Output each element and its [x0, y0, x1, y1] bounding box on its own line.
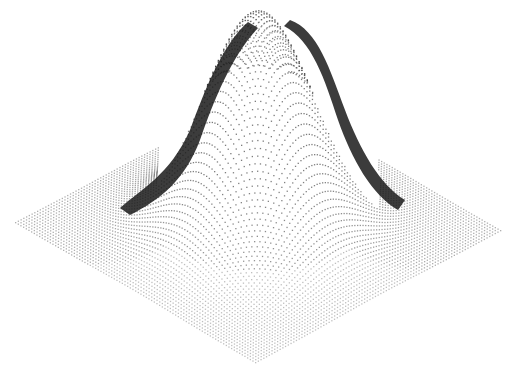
surface-dot: [258, 342, 259, 343]
surface-dot: [406, 231, 407, 232]
surface-dot: [427, 263, 428, 264]
surface-dot: [130, 161, 131, 162]
surface-dot: [285, 41, 286, 42]
surface-dot: [74, 229, 75, 230]
surface-dot: [126, 196, 127, 197]
surface-dot: [122, 176, 123, 177]
surface-dot: [178, 316, 179, 317]
surface-dot: [110, 195, 111, 196]
surface-dot: [338, 228, 339, 229]
surface-dot: [274, 31, 275, 32]
surface-dot: [353, 305, 354, 306]
surface-dot: [357, 230, 358, 231]
surface-dot: [310, 329, 311, 330]
surface-dot: [294, 289, 295, 290]
surface-dot: [273, 145, 274, 146]
surface-dot: [200, 233, 201, 234]
surface-dot: [330, 161, 331, 162]
surface-dot: [201, 173, 202, 174]
surface-dot: [108, 181, 109, 182]
surface-dot: [337, 287, 338, 288]
surface-dot: [112, 237, 113, 238]
surface-dot: [59, 205, 60, 206]
surface-dot: [206, 198, 207, 199]
surface-dot: [195, 210, 196, 211]
surface-dot: [399, 190, 400, 191]
surface-dot: [438, 257, 439, 258]
surface-dot: [85, 256, 86, 257]
surface-dot: [109, 269, 110, 270]
surface-dot: [340, 265, 341, 266]
surface-dot: [326, 320, 327, 321]
surface-dot: [116, 192, 117, 193]
surface-dot: [411, 255, 412, 256]
surface-dot: [354, 219, 355, 220]
surface-dot: [112, 240, 113, 241]
surface-dot: [383, 270, 384, 271]
surface-dot: [411, 258, 412, 259]
surface-dot: [392, 249, 393, 250]
surface-dot: [465, 234, 466, 235]
surface-dot: [123, 203, 124, 204]
surface-dot: [148, 298, 149, 299]
surface-dot: [217, 136, 218, 137]
surface-dot: [272, 338, 273, 339]
surface-dot: [278, 292, 279, 293]
surface-dot: [51, 204, 52, 205]
surface-dot: [219, 190, 220, 191]
surface-dot: [300, 185, 301, 186]
surface-dot: [127, 170, 128, 171]
surface-dot: [181, 283, 182, 284]
surface-dot: [466, 213, 467, 214]
surface-dot: [349, 191, 350, 192]
surface-dot: [143, 292, 144, 293]
surface-dot: [305, 251, 306, 252]
surface-dot: [151, 177, 152, 178]
surface-dot: [394, 262, 395, 263]
surface-dot: [476, 234, 477, 235]
surface-dot: [412, 201, 413, 202]
surface-dot: [317, 174, 318, 175]
surface-dot: [231, 73, 232, 74]
surface-dot: [232, 294, 233, 295]
surface-dot: [397, 281, 398, 282]
surface-dot: [409, 224, 410, 225]
surface-dot: [247, 357, 248, 358]
surface-dot: [327, 199, 328, 200]
surface-dot: [317, 154, 318, 155]
surface-dot: [317, 108, 318, 109]
surface-dot: [272, 292, 273, 293]
surface-dot: [34, 233, 35, 234]
surface-dot: [122, 283, 123, 284]
surface-dot: [439, 212, 440, 213]
surface-dot: [433, 221, 434, 222]
surface-dot: [167, 288, 168, 289]
surface-dot: [87, 263, 88, 264]
surface-dot: [336, 160, 337, 161]
surface-dot: [306, 123, 307, 124]
surface-dot: [234, 340, 235, 341]
surface-dot: [381, 248, 382, 249]
surface-dot: [323, 315, 324, 316]
surface-dot: [259, 308, 260, 309]
surface-dot: [375, 289, 376, 290]
surface-dot: [192, 217, 193, 218]
surface-dot: [337, 303, 338, 304]
surface-dot: [399, 187, 400, 188]
surface-dot: [322, 237, 323, 238]
surface-dot: [325, 200, 326, 201]
surface-dot: [233, 63, 234, 64]
surface-dot: [256, 272, 257, 273]
surface-dot: [151, 169, 152, 170]
surface-dot: [206, 165, 207, 166]
surface-dot: [309, 86, 310, 87]
surface-dot: [117, 235, 118, 236]
surface-dot: [166, 229, 167, 230]
surface-dot: [414, 229, 415, 230]
surface-dot: [58, 226, 59, 227]
surface-dot: [96, 230, 97, 231]
surface-dot: [231, 36, 232, 37]
surface-dot: [174, 231, 175, 232]
surface-dot: [283, 293, 284, 294]
surface-dot: [266, 356, 267, 357]
